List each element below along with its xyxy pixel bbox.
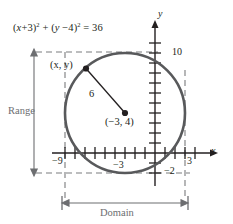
y-tick-label-10: 10 bbox=[172, 47, 182, 57]
x-tick-label-3: 3 bbox=[187, 156, 192, 166]
x-axis-title: x bbox=[211, 146, 215, 156]
domain-label: Domain bbox=[100, 208, 134, 219]
point-xy-label: (x, y) bbox=[50, 60, 73, 71]
point-xy-dot bbox=[83, 65, 89, 71]
range-label: Range bbox=[8, 106, 35, 117]
center-coordinate-label: (−3, 4) bbox=[105, 117, 134, 128]
equation-text: (x+3)2 + (y −4)2 = 36 bbox=[13, 22, 103, 33]
radius-length-label: 6 bbox=[89, 89, 94, 100]
y-tick-label-neg2: −2 bbox=[164, 166, 175, 176]
y-axis-arrowhead bbox=[152, 20, 159, 28]
x-tick-label-neg3: −3 bbox=[113, 160, 124, 170]
equation-label: (x+3)2 + (y −4)2 = 36 bbox=[13, 23, 103, 34]
circle-graph-figure: (x+3)2 + (y −4)2 = 36 (x, y) 6 (−3, 4) R… bbox=[0, 0, 233, 224]
x-tick-label-neg9: −9 bbox=[52, 156, 63, 166]
y-axis-title: y bbox=[158, 9, 162, 19]
